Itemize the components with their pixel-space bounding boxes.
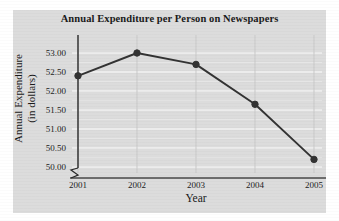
chart-figure: Annual Expenditure per Person on Newspap… — [0, 0, 339, 221]
data-point — [311, 156, 317, 162]
vertical-gridlines — [78, 35, 314, 173]
data-point — [252, 101, 258, 107]
plot-area — [0, 0, 339, 221]
data-point — [193, 61, 199, 67]
gridlines — [72, 53, 322, 167]
data-point — [75, 73, 81, 79]
axis-break-icon — [71, 168, 78, 178]
axis-lines — [70, 35, 326, 178]
data-point — [134, 50, 140, 56]
